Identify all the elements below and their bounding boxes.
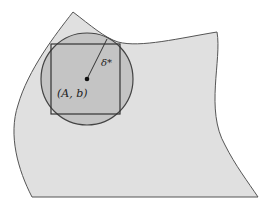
center-label: (A, b) xyxy=(57,87,88,100)
radius-label: δ* xyxy=(101,57,112,68)
center-point xyxy=(85,77,90,82)
diagram-canvas: (A, b) δ* xyxy=(0,0,270,206)
